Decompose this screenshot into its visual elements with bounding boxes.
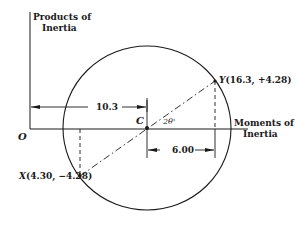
point-x-label: X(4.30, −4.28): [19, 171, 92, 181]
point-x-name: X: [19, 171, 26, 181]
y-axis-label-line2: Inertia: [42, 23, 77, 33]
point-c: [145, 126, 149, 130]
point-y-label: Y(16.3, +4.28): [219, 75, 292, 85]
y-axis-label-line1: Products of: [33, 12, 91, 22]
arrowhead-6-right: [205, 148, 214, 152]
point-x-coords: (4.30, −4.28): [26, 171, 92, 181]
origin-label: O: [18, 132, 27, 142]
x-axis-label-line2: Inertia: [243, 129, 278, 139]
dim-6-label: 6.00: [172, 145, 194, 155]
x-axis-label-line1: Moments of: [234, 118, 294, 128]
point-y: [213, 79, 216, 82]
dim-10-3-label: 10.3: [96, 102, 118, 112]
center-label: C: [136, 116, 144, 126]
point-y-coords: (16.3, +4.28): [225, 75, 291, 85]
mohr-circle-diagram: [0, 0, 297, 227]
angle-label: 2θ': [163, 117, 175, 127]
arrowhead-left: [31, 105, 40, 109]
arrowhead-right: [137, 105, 146, 109]
arrowhead-6-left: [148, 148, 157, 152]
